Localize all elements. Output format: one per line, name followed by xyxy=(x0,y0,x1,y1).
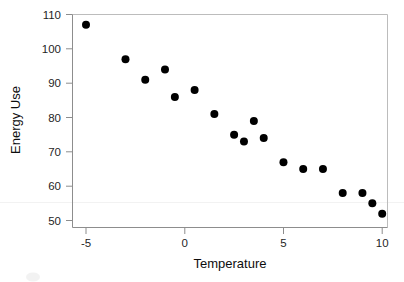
data-point xyxy=(260,134,268,142)
data-point xyxy=(378,210,386,218)
data-point xyxy=(121,55,129,63)
y-axis-title: Energy Use xyxy=(8,86,23,154)
data-point xyxy=(141,76,149,84)
scan-artifact-smudge xyxy=(26,273,40,282)
data-point xyxy=(171,93,179,101)
data-point xyxy=(82,21,90,29)
chart-canvas: 110 100 90 80 70 60 50 -5 0 5 10 Tempera… xyxy=(0,0,404,282)
data-point xyxy=(250,117,258,125)
data-point xyxy=(319,165,327,173)
x-ticklabel-0: 0 xyxy=(182,237,188,249)
data-point xyxy=(230,131,238,139)
y-ticklabel-80: 80 xyxy=(48,112,61,124)
y-ticklabel-90: 90 xyxy=(48,77,61,89)
data-point xyxy=(368,199,376,207)
data-point xyxy=(161,65,169,73)
y-ticklabel-110: 110 xyxy=(43,9,61,21)
data-point xyxy=(240,138,248,146)
x-ticklabel-minus5: -5 xyxy=(81,237,91,249)
data-point xyxy=(210,110,218,118)
y-ticklabel-70: 70 xyxy=(48,146,61,158)
scatter-plot-figure: 110 100 90 80 70 60 50 -5 0 5 10 Tempera… xyxy=(0,0,404,282)
x-ticklabel-10: 10 xyxy=(376,237,389,249)
data-point xyxy=(339,189,347,197)
data-point xyxy=(279,158,287,166)
data-point xyxy=(191,86,199,94)
data-point xyxy=(299,165,307,173)
x-axis-title: Temperature xyxy=(194,256,267,271)
data-point xyxy=(358,189,366,197)
y-ticklabel-100: 100 xyxy=(42,43,61,55)
y-ticklabel-50: 50 xyxy=(48,215,61,227)
y-ticklabel-60: 60 xyxy=(48,180,61,192)
x-ticklabel-5: 5 xyxy=(280,237,286,249)
